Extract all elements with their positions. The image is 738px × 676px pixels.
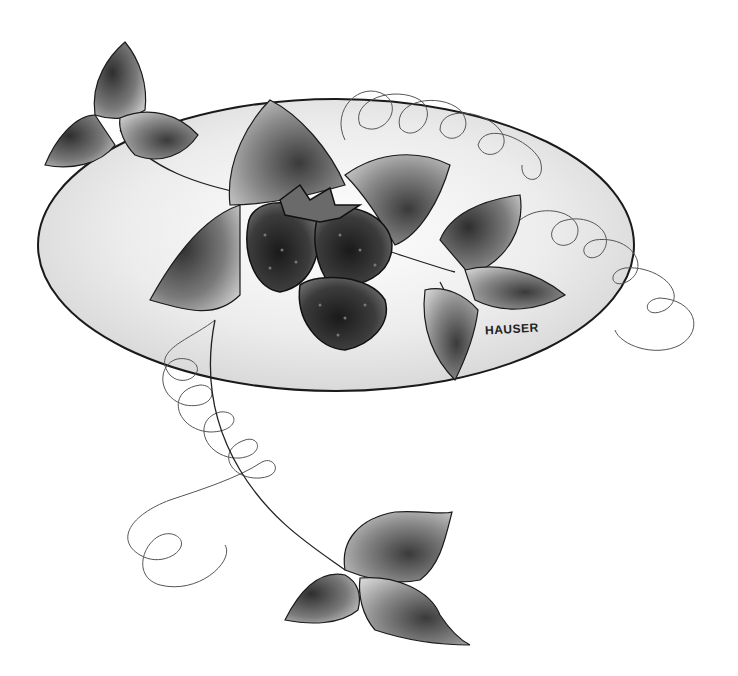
illustration-canvas: HAUSER	[0, 0, 738, 676]
strawberry-illustration	[0, 0, 738, 676]
artist-signature: HAUSER	[485, 321, 539, 338]
bottom-leaves	[285, 512, 470, 645]
